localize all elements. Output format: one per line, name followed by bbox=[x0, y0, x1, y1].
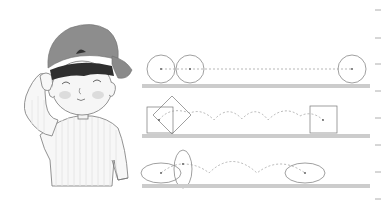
left-cheek bbox=[59, 91, 71, 99]
diagram-circle-rolling bbox=[142, 55, 370, 88]
right-cheek bbox=[92, 91, 104, 99]
ground-1 bbox=[142, 84, 370, 88]
boy-illustration bbox=[24, 24, 132, 186]
ground-2 bbox=[142, 134, 370, 138]
cap bbox=[48, 24, 132, 80]
margin-ticks bbox=[375, 10, 381, 199]
diagram-square-rolling bbox=[142, 96, 370, 138]
ground-3 bbox=[142, 184, 370, 188]
diagram-ellipse-rolling bbox=[141, 150, 370, 188]
illustration-stage bbox=[0, 0, 381, 201]
